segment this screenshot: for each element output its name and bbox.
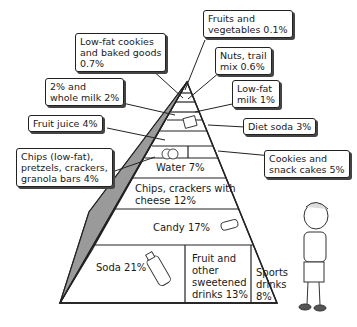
callout-chips-lowfat: Chips (low-fat), pretzels, crackers, gra…: [16, 148, 113, 187]
callout-lowfat-milk: Low-fat milk 1%: [232, 80, 280, 108]
callout-fruits-vegetables: Fruits and vegetables 0.1%: [203, 10, 293, 38]
callout-fruit-juice: Fruit juice 4%: [28, 115, 103, 132]
boy-figure-icon: [299, 202, 328, 311]
callout-lowfat-cookies: Low-fat cookies and baked goods 0.7%: [75, 33, 166, 72]
layer-water: Water 7%: [156, 162, 205, 174]
callout-whole-milk: 2% and whole milk 2%: [45, 78, 124, 106]
base-soda: Soda 21%: [96, 262, 146, 274]
callout-cookies-snack-cakes: Cookies and snack cakes 5%: [264, 150, 350, 178]
layer-chips-cheese: Chips, crackers with cheese 12%: [135, 183, 236, 207]
base-fruit-drinks: Fruit and other sweetened drinks 13%: [192, 253, 248, 301]
layer-candy: Candy 17%: [153, 222, 210, 234]
pretzel-icon: [162, 149, 178, 159]
base-sports-drinks: Sports drinks 8%: [256, 267, 288, 303]
callout-diet-soda: Diet soda 3%: [243, 118, 316, 135]
callout-nuts-trail-mix: Nuts, trail mix 0.6%: [215, 47, 272, 75]
